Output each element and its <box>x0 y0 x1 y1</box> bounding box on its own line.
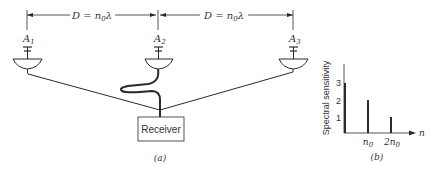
antenna-label-a2: A2 <box>153 33 166 46</box>
signal-cables <box>28 69 293 117</box>
ytick-2: 2 <box>336 96 341 106</box>
dimension-lines <box>27 10 293 30</box>
spacing-label-right: D = n0λ <box>203 10 244 23</box>
antenna-label-a3: A3 <box>288 33 301 46</box>
spacing-label-left: D = n0λ <box>71 10 112 23</box>
x-axis-label: n <box>419 128 425 138</box>
interferometer-figure: D = n0λ D = n0λ A1 A2 A3 Receiver (a) <box>0 0 434 171</box>
xtick-2n0: 2n0 <box>383 137 401 149</box>
antenna-dish-icon <box>145 47 173 69</box>
y-axis-label: Spectral sensitivity <box>321 60 331 135</box>
ytick-3: 3 <box>336 78 341 88</box>
ytick-1: 1 <box>336 113 341 123</box>
antenna-dish-icon <box>279 47 308 69</box>
antenna-label-a1: A1 <box>22 33 35 46</box>
caption-b: (b) <box>371 152 384 162</box>
caption-a: (a) <box>154 153 167 163</box>
spectral-chart: 1 2 3 n0 2n0 n Spectral sensitivity (b) <box>321 60 425 162</box>
antenna-dish-icon <box>13 47 42 73</box>
xtick-n0: n0 <box>363 137 374 149</box>
receiver-label: Receiver <box>141 124 181 135</box>
